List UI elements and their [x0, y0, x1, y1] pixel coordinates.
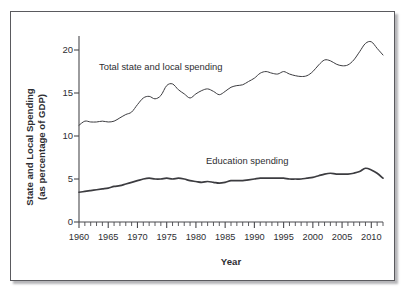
y-tick-label-0: 0 [68, 216, 73, 227]
x-axis-title: Year [221, 256, 242, 267]
annotation-education-spending: Education spending [206, 155, 288, 166]
x-tick-label-2010: 2010 [361, 232, 381, 242]
x-tick-label-2005: 2005 [332, 232, 352, 242]
y-axis-title-line1: State and Local Spending [24, 88, 35, 205]
x-tick-label-1975: 1975 [156, 232, 176, 242]
y-tick-label-10: 10 [62, 130, 73, 141]
y-tick-label-15: 15 [62, 87, 73, 98]
x-tick-label-1980: 1980 [186, 232, 206, 242]
x-tick-label-group: 1960196519701975198019851990199520002005… [69, 232, 382, 242]
y-tick-label-20: 20 [62, 44, 73, 55]
x-tick-group [79, 222, 383, 228]
x-tick-label-1995: 1995 [273, 232, 293, 242]
x-tick-label-1965: 1965 [98, 232, 118, 242]
series-line-education-spending [79, 168, 383, 192]
x-tick-label-2000: 2000 [303, 232, 323, 242]
y-tick-label-5: 5 [68, 173, 73, 184]
figure-frame: State and Local Spending (as percentage … [10, 11, 395, 281]
x-tick-label-1970: 1970 [127, 232, 147, 242]
y-axis-title-line2: (as percentage of GDP) [36, 94, 47, 200]
chart-canvas: State and Local Spending (as percentage … [11, 12, 396, 282]
x-tick-label-1960: 1960 [69, 232, 89, 242]
series-line-total-spending [79, 41, 383, 125]
annotation-total-spending: Total state and local spending [99, 61, 223, 72]
x-tick-label-1990: 1990 [244, 232, 264, 242]
x-tick-label-1985: 1985 [215, 232, 235, 242]
